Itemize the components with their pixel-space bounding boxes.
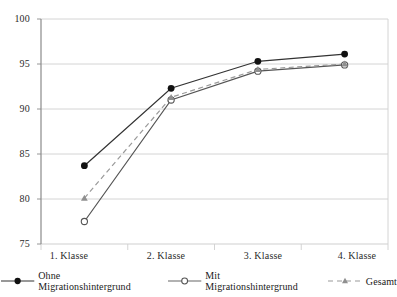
chart-legend: Ohne Migrationshintergrund Mit Migration… (0, 272, 397, 290)
y-tick-label: 80 (4, 194, 30, 204)
legend-item-ohne-migrationshintergrund: Ohne Migrationshintergrund (0, 270, 153, 292)
x-tick-label-1: 1. Klasse (32, 250, 106, 261)
legend-label: Mit Migrationshintergrund (205, 270, 313, 292)
y-tick-label: 90 (4, 104, 30, 114)
legend-item-mit-migrationshintergrund: Mit Migrationshintergrund (167, 270, 313, 292)
y-tick-label: 75 (4, 239, 30, 249)
chart-figure: 100 95 90 85 80 75 1. Klasse 2. Klasse 3… (0, 0, 397, 297)
legend-item-gesamt: Gesamt (327, 275, 397, 287)
x-tick-label-2: 2. Klasse (129, 250, 203, 261)
x-tick-label-3: 3. Klasse (226, 250, 300, 261)
y-tick-label: 95 (4, 59, 30, 69)
legend-marker-open-circle-icon (167, 275, 202, 287)
legend-label: Ohne Migrationshintergrund (38, 270, 153, 292)
series-markers (81, 51, 348, 225)
legend-marker-filled-circle-icon (0, 275, 35, 287)
x-tick-label-4: 4. Klasse (320, 250, 394, 261)
series-lines (84, 54, 344, 221)
y-tick-label: 100 (4, 14, 30, 24)
y-tick-label: 85 (4, 149, 30, 159)
axis-lines (37, 19, 388, 244)
legend-label: Gesamt (366, 276, 397, 287)
legend-marker-triangle-icon (327, 275, 363, 287)
